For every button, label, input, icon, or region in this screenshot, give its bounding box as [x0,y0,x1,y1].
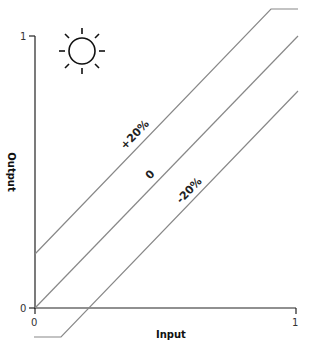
x-tick-1: 1 [292,317,298,328]
line-label-minus-20: -20% [174,175,205,206]
y-tick-1: 1 [20,31,26,42]
y-tick-0: 0 [20,303,26,314]
sun-icon [59,28,105,74]
line-label-zero: 0 [143,167,158,182]
x-tick-0: 0 [31,317,37,328]
line-label-plus-20: +20% [118,117,152,152]
y-axis-label: Output [6,152,17,192]
x-axis-label: Input [156,329,186,340]
diagram-canvas: 1 0 0 1 Input Output +20% 0 -20% [0,0,313,349]
line-zero [35,36,298,308]
